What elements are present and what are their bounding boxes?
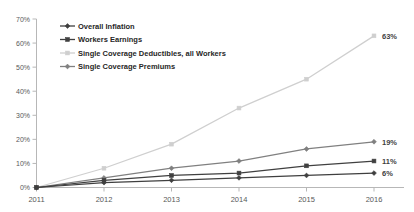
data-point [305,164,309,168]
legend-swatch-marker [66,51,70,55]
legend-swatch-marker [65,64,70,69]
end-label-0: 6% [382,169,393,178]
y-tick-label: 0% [20,184,30,191]
chart-canvas: 0%10%20%30%40%50%60%70% 2011201220132014… [0,0,414,212]
data-point [170,174,174,178]
end-labels-container: 6%11%63%19% [382,32,397,178]
legend-label: Overall Inflation [78,22,135,31]
data-point [372,171,377,176]
end-label-2: 63% [382,32,397,41]
x-tick-label: 2014 [231,195,248,204]
x-tick-label: 2016 [366,195,383,204]
data-point [372,34,376,38]
data-point [237,159,242,164]
data-point [237,106,241,110]
legend-item-0: Overall Inflation [60,22,135,31]
x-tick-label: 2015 [298,195,315,204]
legend-label: Single Coverage Premiums [78,62,175,71]
data-point [372,139,377,144]
end-label-1: 11% [382,157,397,166]
data-point [237,171,241,175]
y-tick-label: 50% [16,64,30,71]
y-axis-ticks: 0%10%20%30%40%50%60%70% [16,16,37,192]
y-axis: 0%10%20%30%40%50%60%70% [16,16,37,192]
data-point [169,166,174,171]
data-point [237,175,242,180]
data-point [305,77,309,81]
legend-item-2: Single Coverage Deductibles, all Workers [60,49,226,58]
x-tick-label: 2012 [96,195,113,204]
legend-label: Workers Earnings [78,35,142,44]
data-point [170,142,174,146]
x-axis-ticks: 201120122013201420152016 [28,188,382,205]
end-label-3: 19% [382,138,397,147]
x-axis: 201120122013201420152016 [28,188,404,205]
y-tick-label: 20% [16,136,30,143]
data-point [102,166,106,170]
y-tick-label: 10% [16,160,30,167]
legend-item-1: Workers Earnings [60,35,142,44]
data-point [304,173,309,178]
inflation-comparison-chart: 0%10%20%30%40%50%60%70% 2011201220132014… [0,0,414,212]
data-point [169,178,174,183]
y-tick-label: 70% [16,16,30,23]
data-point [372,159,376,163]
x-tick-label: 2011 [28,195,44,204]
data-point [304,147,309,152]
y-tick-label: 60% [16,40,30,47]
x-tick-label: 2013 [163,195,180,204]
y-tick-label: 40% [16,88,30,95]
legend-swatch-marker [65,24,70,29]
legend-swatch-marker [66,38,70,42]
legend-label: Single Coverage Deductibles, all Workers [78,49,226,58]
y-tick-label: 30% [16,112,30,119]
chart-legend: Overall InflationWorkers EarningsSingle … [60,22,226,72]
legend-item-3: Single Coverage Premiums [60,62,175,71]
